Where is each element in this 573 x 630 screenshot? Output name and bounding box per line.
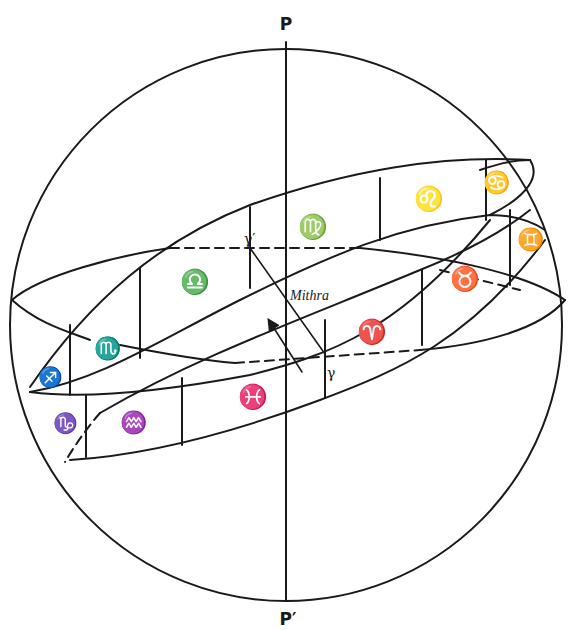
zodiac-band-top-end [480, 160, 530, 170]
gemini-glyph: ♊ [517, 227, 544, 252]
old-equinox-marker: γ [327, 365, 335, 381]
south-pole-label: P′ [280, 609, 297, 629]
mithra-label: Mithra [289, 288, 329, 303]
capricorn-glyph: ♑ [53, 411, 78, 435]
aquarius-glyph: ♒ [120, 410, 147, 435]
equator-front-dashed [235, 350, 420, 363]
libra-glyph: ♎ [180, 268, 210, 296]
diagram-canvas: P P′ Mithra γ′ γ ♋ ♌ ♍ ♎ ♏ ♐ ♑ ♒ ♓ ♈ ♉ ♊ [0, 0, 573, 630]
equator-back-left [12, 248, 170, 300]
cancer-glyph: ♋ [483, 170, 510, 195]
equator-front-left [12, 300, 90, 340]
aries-glyph: ♈ [357, 318, 387, 346]
virgo-glyph: ♍ [298, 213, 328, 241]
north-pole-label: P [280, 14, 292, 34]
new-equinox-marker: γ′ [244, 231, 256, 247]
pisces-glyph: ♓ [238, 383, 268, 411]
celestial-sphere-diagram: P P′ Mithra γ′ γ ♋ ♌ ♍ ♎ ♏ ♐ ♑ ♒ ♓ ♈ ♉ ♊ [0, 0, 573, 630]
taurus-glyph: ♉ [450, 265, 480, 293]
scorpio-glyph: ♏ [94, 336, 121, 361]
sagittarius-glyph: ♐ [38, 365, 63, 389]
leo-glyph: ♌ [414, 185, 444, 213]
